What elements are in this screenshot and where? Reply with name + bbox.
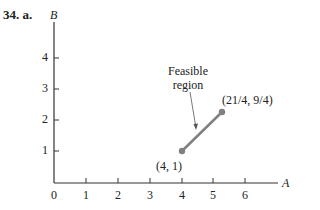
x-tick-label: 5 <box>210 188 216 203</box>
feasible-region-segment <box>182 112 222 151</box>
point-21-4-9-4 <box>219 109 225 115</box>
x-tick-label: 3 <box>147 188 153 203</box>
y-tick-label: 2 <box>42 112 48 127</box>
arrowhead-icon <box>194 124 199 131</box>
feasible-region-annotation: Feasible region <box>168 64 208 92</box>
x-tick-label: 6 <box>242 188 248 203</box>
x-tick-label: 4 <box>179 188 185 203</box>
x-tick-label: 2 <box>115 188 121 203</box>
y-tick-label: 3 <box>42 81 48 96</box>
y-ticks <box>54 58 59 151</box>
annotation-line-2: region <box>168 78 208 92</box>
x-tick-label: 0 <box>51 188 57 203</box>
point-label-21-4-9-4: (21/4, 9/4) <box>222 93 273 108</box>
x-tick-label: 1 <box>83 188 89 203</box>
y-tick-label: 1 <box>42 143 48 158</box>
point-4-1 <box>179 148 185 154</box>
point-label-4-1: (4, 1) <box>156 159 182 174</box>
y-tick-label: 4 <box>42 50 48 65</box>
annotation-line-1: Feasible <box>168 64 208 78</box>
y-axis-label: B <box>50 8 57 23</box>
x-ticks <box>86 178 245 183</box>
x-axis-label: A <box>282 176 289 191</box>
annotation-arrow <box>190 92 196 128</box>
